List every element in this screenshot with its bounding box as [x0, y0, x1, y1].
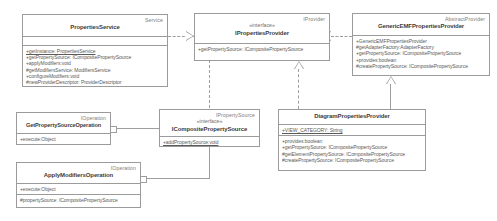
class-name-label: ICompositePropertySource: [164, 125, 255, 133]
attributes-compartment: #propertySource: ICompositePropertySourc…: [17, 195, 140, 205]
member-row: #createPropertySource: ICompositePropert…: [282, 157, 422, 163]
connector-applymodifiersoperation-horizontal: [146, 178, 210, 179]
arrowhead-inner: [295, 62, 303, 69]
class-header-getpropertysourceoperation: IOperation GetPropertySourceOperation: [17, 113, 110, 134]
member-row: #propertySource: ICompositePropertySourc…: [20, 197, 137, 203]
class-header-genericemfpropertiesprovider: AbstractProvider GenericEMFPropertiesPro…: [353, 14, 489, 36]
class-header-diagrampropertiesprovider: DiagramPropertiesProvider: [279, 110, 425, 125]
uml-diagram-canvas: Service PropertiesService +getInstance: …: [0, 0, 497, 221]
methods-compartment: +GenericEMFPropertiesProvider #getAdapte…: [353, 36, 489, 71]
class-box-applymodifiersoperation[interactable]: IOperation ApplyModifiersOperation +exec…: [16, 162, 141, 208]
connector-icomposite-downward: [209, 146, 210, 160]
class-box-icompositepropertysource[interactable]: IPropertySource «interface» ICompositePr…: [159, 109, 260, 147]
connector-applymodifiersoperation-vertical: [209, 160, 210, 179]
member-row: #createPropertySource: ICompositePropert…: [356, 63, 486, 69]
arrowhead-inner: [387, 77, 395, 84]
member-row: #getElementPropertySource: ICompositePro…: [282, 151, 422, 157]
class-box-ipropertiesprovider[interactable]: IProvider «interface» IPropertiesProvide…: [194, 13, 330, 61]
class-header-ipropertiesprovider: IProvider «interface» IPropertiesProvide…: [195, 14, 329, 44]
class-box-properties-service[interactable]: Service PropertiesService +getInstance: …: [22, 14, 168, 87]
class-box-genericemfpropertiesprovider[interactable]: AbstractProvider GenericEMFPropertiesPro…: [352, 13, 490, 76]
class-header-properties-service: Service PropertiesService: [23, 15, 167, 37]
realization-arrowhead-up: [294, 61, 304, 69]
generalization-arrowhead-up: [386, 76, 396, 84]
member-row: +VIEW_CATEGORY: String: [282, 127, 422, 133]
class-name-label: IPropertiesProvider: [199, 29, 325, 37]
realization-arrowhead-right: [186, 31, 194, 41]
connector-getpropertysourceoperation-to-icomposite: [116, 128, 159, 129]
class-name-label: GetPropertySourceOperation: [21, 121, 106, 129]
attributes-compartment: +VIEW_CATEGORY: String: [279, 125, 425, 136]
class-header-applymodifiersoperation: IOperation ApplyModifiersOperation: [17, 163, 140, 184]
methods-compartment: +addPropertySource:void: [160, 137, 259, 147]
connector-diagramprovider-to-ipropertiesprovider: [298, 69, 299, 109]
class-name-label: DiagramPropertiesProvider: [283, 112, 421, 120]
member-row: +execute:Object: [20, 186, 137, 192]
class-name-label: ApplyModifiersOperation: [21, 171, 136, 179]
methods-compartment: +execute:Object: [17, 134, 110, 144]
attributes-compartment: [23, 37, 167, 46]
class-header-icompositepropertysource: IPropertySource «interface» ICompositePr…: [160, 110, 259, 137]
association-end-square-b: [140, 176, 147, 183]
class-name-label: GenericEMFPropertiesProvider: [357, 22, 485, 30]
connector-genericemf-to-ipropertiesprovider: [331, 36, 352, 37]
member-row: #newProviderDescriptor: ProviderDescript…: [26, 79, 164, 85]
methods-compartment: +getInstance: PropertiesService +getProp…: [23, 46, 167, 87]
methods-compartment: +provides:boolean +getPropertySource: IC…: [279, 136, 425, 165]
methods-compartment: +execute:Object: [17, 184, 140, 195]
member-row: +getPropertySource: ICompositePropertySo…: [198, 46, 326, 52]
member-row: +execute:Object: [20, 136, 107, 142]
arrowhead-inner: [186, 32, 193, 40]
class-box-diagrampropertiesprovider[interactable]: DiagramPropertiesProvider +VIEW_CATEGORY…: [278, 109, 426, 171]
methods-compartment: +getPropertySource: ICompositePropertySo…: [195, 44, 329, 54]
class-name-label: PropertiesService: [27, 23, 163, 31]
connector-diagramprovider-to-genericemf: [390, 84, 391, 109]
class-box-getpropertysourceoperation[interactable]: IOperation GetPropertySourceOperation +e…: [16, 112, 111, 145]
connector-icomposite-upward: [209, 60, 210, 108]
association-end-square-a: [110, 126, 117, 133]
member-row: +addPropertySource:void: [163, 139, 256, 145]
